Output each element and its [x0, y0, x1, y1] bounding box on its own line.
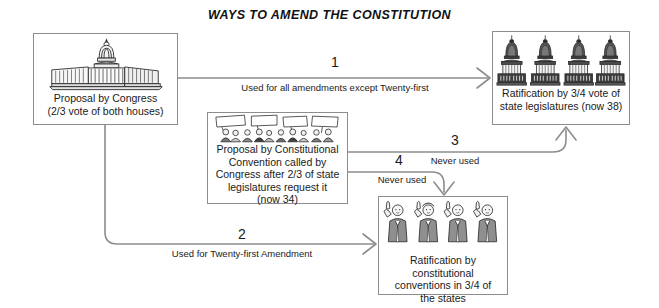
connector-4-note: Never used [362, 174, 442, 185]
node-ratification-by-conventions[interactable]: Ratification by constitutional conventio… [378, 196, 508, 295]
capitol-building-icon [34, 34, 177, 92]
arrowhead-3 [556, 127, 576, 140]
page-title: WAYS TO AMEND THE CONSTITUTION [0, 8, 659, 22]
arrowhead-1 [477, 68, 490, 88]
connector-2-note: Used for Twenty-first Amendment [142, 248, 342, 259]
delegates-raised-hands-icon [379, 197, 507, 254]
connector-1-note: Used for all amendments except Twenty-fi… [225, 82, 445, 93]
diagram-canvas: WAYS TO AMEND THE CONSTITUTION [0, 0, 659, 308]
node-caption: Proposal by Constitutional Convention ca… [208, 143, 347, 209]
arrowhead-2 [363, 234, 376, 254]
node-proposal-by-convention[interactable]: Proposal by Constitutional Convention ca… [207, 112, 348, 204]
node-caption: Ratification by 3/4 vote of state legisl… [493, 87, 629, 115]
protesters-with-signs-icon [208, 113, 347, 143]
node-caption: Proposal by Congress (2/3 vote of both h… [34, 92, 177, 120]
node-proposal-by-congress[interactable]: Proposal by Congress (2/3 vote of both h… [33, 33, 178, 125]
four-state-capitols-icon [493, 32, 629, 87]
connector-2-number: 2 [212, 226, 272, 242]
connector-4-number: 4 [369, 152, 429, 168]
connector-3-number: 3 [425, 132, 485, 148]
node-ratification-by-legislatures[interactable]: Ratification by 3/4 vote of state legisl… [492, 31, 630, 125]
connector-1-number: 1 [305, 54, 365, 70]
node-caption: Ratification by constitutional conventio… [379, 254, 507, 307]
